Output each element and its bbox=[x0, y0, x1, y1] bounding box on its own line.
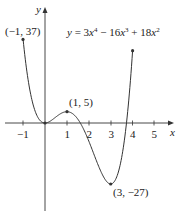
label-minimum: (3, −27) bbox=[113, 186, 149, 199]
tick-label: −1 bbox=[17, 128, 29, 140]
point-minus1-37 bbox=[21, 38, 24, 41]
function-graph: −1 1 2 3 4 5 x y (−1, 37) (1, 5) (3, −27… bbox=[0, 0, 178, 213]
tick-label: 3 bbox=[109, 128, 115, 140]
label-point-left: (−1, 37) bbox=[5, 25, 41, 38]
point-1-5 bbox=[65, 110, 68, 113]
y-axis-label: y bbox=[35, 3, 41, 15]
x-axis-label: x bbox=[169, 126, 175, 138]
x-axis-arrow-icon bbox=[168, 121, 174, 126]
equation: y = 3x4 − 16x3 + 18x2 bbox=[66, 26, 160, 38]
point-origin bbox=[43, 121, 46, 124]
point-4-32 bbox=[131, 49, 134, 52]
label-local-max: (1, 5) bbox=[69, 96, 93, 109]
tick-label: 4 bbox=[130, 128, 136, 140]
tick-label: 5 bbox=[152, 128, 158, 140]
y-axis-arrow-icon bbox=[43, 7, 48, 13]
tick-label: 1 bbox=[65, 128, 71, 140]
function-curve bbox=[23, 39, 133, 184]
point-3-minus27 bbox=[109, 182, 112, 185]
